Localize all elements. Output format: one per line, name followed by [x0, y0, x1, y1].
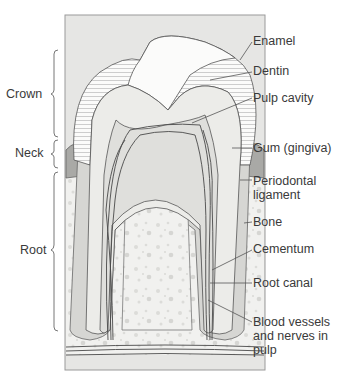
tooth-diagram: Crown Neck Root Enamel Dentin Pulp cavit… [0, 0, 344, 390]
label-pulp-cavity: Pulp cavity [253, 91, 313, 105]
label-periodontal-ligament: Periodontal ligament [253, 174, 333, 202]
label-bone: Bone [253, 215, 282, 229]
label-gum: Gum (gingiva) [253, 141, 332, 155]
region-crown-label: Crown [6, 87, 42, 101]
label-blood-vessels: Blood vessels and nerves in pulp [253, 315, 341, 357]
region-neck-label: Neck [15, 146, 43, 160]
label-cementum: Cementum [253, 242, 314, 256]
label-dentin: Dentin [253, 64, 289, 78]
region-root-label: Root [20, 243, 46, 257]
label-enamel: Enamel [253, 34, 295, 48]
inter-root-bone [122, 198, 192, 331]
region-brackets [51, 50, 58, 331]
label-root-canal: Root canal [253, 276, 313, 290]
